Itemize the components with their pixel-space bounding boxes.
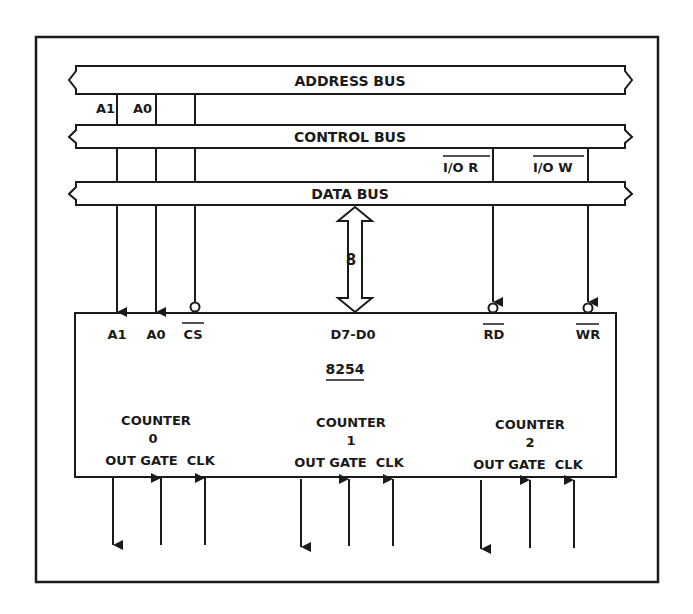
counter-1-number: 1 [346,433,355,448]
pin-cs-label: CS [183,327,202,342]
counter-2-title: COUNTER [495,417,565,432]
counter-1-title: COUNTER [316,415,386,430]
counter-0-pins: OUT GATE CLK [105,453,215,468]
counter-0-title: COUNTER [121,413,191,428]
counter-2-pins: OUT GATE CLK [473,457,583,472]
counter-0: COUNTER 0 OUT GATE CLK [105,413,215,468]
outer-frame [36,37,658,582]
chip-name: 8254 [326,361,365,377]
counter-2: COUNTER 2 OUT GATE CLK [473,417,583,472]
rd-inversion-bubble [489,304,498,313]
address-line-a0-label: A0 [133,101,152,116]
pin-data-label: D7-D0 [330,327,375,342]
data-bus-label: DATA BUS [311,186,389,202]
address-line-a1-label: A1 [96,101,115,116]
counter-2-number: 2 [525,435,534,450]
data-bus: DATA BUS [69,182,632,205]
address-bus-label: ADDRESS BUS [295,73,406,89]
counter-0-number: 0 [148,431,157,446]
wr-inversion-bubble [584,304,593,313]
pin-wr-label: WR [576,327,600,342]
pin-a0-label: A0 [146,327,165,342]
counter-1: COUNTER 1 OUT GATE CLK [294,415,404,470]
address-bus: ADDRESS BUS [69,66,632,94]
pin-rd-label: RD [484,327,505,342]
control-bus: CONTROL BUS [69,125,632,148]
io-read-label: I/O R [443,160,478,175]
8254-interface-diagram: ADDRESS BUS CONTROL BUS DATA BUS A1 A0 I… [0,0,693,614]
pin-a1-label: A1 [107,327,126,342]
io-write-label: I/O W [533,160,573,175]
control-bus-label: CONTROL BUS [294,129,406,145]
cs-inversion-bubble [191,303,200,312]
counter-1-pins: OUT GATE CLK [294,455,404,470]
data-bus-width-label: 8 [346,251,356,269]
